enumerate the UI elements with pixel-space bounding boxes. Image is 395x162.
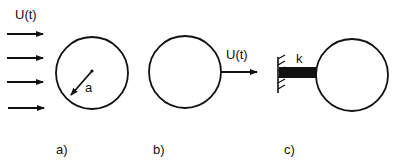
cylinder-circle — [149, 36, 221, 108]
radius-label: a — [85, 80, 93, 95]
panel-b: U(t) b) — [149, 36, 257, 157]
panel-caption-b: b) — [153, 142, 165, 157]
cylinder-circle — [316, 39, 388, 111]
panel-caption-c: c) — [284, 142, 295, 157]
panel-a: U(t) a a) — [7, 7, 128, 157]
cylinder-circle — [56, 37, 128, 109]
spring-bar — [279, 67, 317, 78]
velocity-label: U(t) — [226, 47, 248, 62]
spring-label: k — [296, 51, 303, 66]
diagram-canvas: U(t) a a) U(t) b) k c) — [0, 0, 395, 162]
panel-c: k c) — [278, 39, 388, 157]
flow-arrows — [7, 34, 44, 108]
flow-velocity-label: U(t) — [15, 7, 37, 22]
panel-caption-a: a) — [56, 142, 68, 157]
